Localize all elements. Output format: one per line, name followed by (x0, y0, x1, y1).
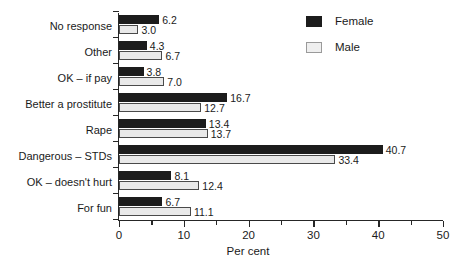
bar-value-label: 33.4 (335, 154, 358, 165)
x-axis-tick-major (249, 221, 250, 227)
category-label: OK – doesn't hurt (0, 177, 112, 188)
bar-female[interactable] (119, 197, 162, 206)
bar-male[interactable] (119, 77, 164, 86)
x-axis-tick-label: 20 (242, 230, 255, 242)
bar-group: 16.712.7 (119, 91, 443, 117)
y-axis-tick (113, 37, 119, 38)
plot-area: 6.23.04.36.73.87.016.712.713.413.740.733… (119, 13, 443, 221)
bar-group: 40.733.4 (119, 143, 443, 169)
category-label: Other (0, 47, 112, 58)
bar-value-label: 13.7 (208, 128, 231, 139)
bar-male[interactable] (119, 207, 191, 216)
bar-value-label: 6.7 (162, 196, 180, 207)
bar-chart: No responseOtherOK – if payBetter a pros… (0, 0, 459, 269)
bar-group: 3.87.0 (119, 65, 443, 91)
legend-swatch-female-icon (306, 16, 322, 27)
bar-male[interactable] (119, 181, 199, 190)
bar-group: 6.23.0 (119, 13, 443, 39)
x-axis-tick-major (378, 221, 379, 227)
x-axis-tick-minor (281, 221, 282, 225)
bar-value-label: 7.0 (164, 76, 182, 87)
bar-male[interactable] (119, 25, 138, 34)
legend-item-female: Female (306, 16, 373, 28)
x-axis-tick-minor (411, 221, 412, 225)
x-axis-tick-major (184, 221, 185, 227)
bar-value-label: 6.2 (159, 14, 177, 25)
bar-value-label: 3.8 (144, 66, 162, 77)
bar-value-label: 12.4 (199, 180, 222, 191)
x-axis-title: Per cent (227, 246, 270, 258)
y-axis-tick (113, 115, 119, 116)
bar-value-label: 12.7 (201, 102, 224, 113)
y-axis-tick (113, 11, 119, 12)
x-axis-tick-label: 10 (177, 230, 190, 242)
bar-male[interactable] (119, 155, 335, 164)
bar-female[interactable] (119, 67, 144, 76)
bar-male[interactable] (119, 103, 201, 112)
bar-value-label: 11.1 (191, 206, 214, 217)
bar-value-label: 6.7 (162, 50, 180, 61)
legend-label-female: Female (335, 16, 373, 28)
category-label: No response (0, 21, 112, 32)
bar-value-label: 40.7 (383, 144, 406, 155)
bar-group: 6.711.1 (119, 195, 443, 221)
legend-swatch-male-icon (306, 42, 322, 53)
x-axis-tick-minor (346, 221, 347, 225)
category-label: For fun (0, 203, 112, 214)
y-axis-tick (113, 141, 119, 142)
x-axis-tick-major (313, 221, 314, 227)
bar-group: 13.413.7 (119, 117, 443, 143)
bar-group: 4.36.7 (119, 39, 443, 65)
x-axis-tick-label: 0 (116, 230, 122, 242)
y-axis-tick (113, 89, 119, 90)
bar-male[interactable] (119, 129, 208, 138)
x-axis-tick-label: 50 (437, 230, 450, 242)
bar-value-label: 4.3 (147, 40, 165, 51)
legend-label-male: Male (335, 42, 360, 54)
category-label: Rape (0, 125, 112, 136)
x-axis-tick-minor (151, 221, 152, 225)
x-axis-tick-major (443, 221, 444, 227)
bar-male[interactable] (119, 51, 162, 60)
bar-group: 8.112.4 (119, 169, 443, 195)
bar-value-label: 16.7 (227, 92, 250, 103)
bar-female[interactable] (119, 171, 171, 180)
category-label: Dangerous – STDs (0, 151, 112, 162)
y-axis-tick (113, 63, 119, 64)
category-label: Better a prostitute (0, 99, 112, 110)
x-axis-tick-label: 30 (307, 230, 320, 242)
y-axis-tick (113, 167, 119, 168)
bar-female[interactable] (119, 41, 147, 50)
x-axis-tick-major (119, 221, 120, 227)
bar-value-label: 8.1 (171, 170, 189, 181)
y-axis-tick (113, 193, 119, 194)
x-axis-tick-label: 40 (372, 230, 385, 242)
category-label: OK – if pay (0, 73, 112, 84)
legend-item-male: Male (306, 42, 360, 54)
x-axis-tick-minor (216, 221, 217, 225)
bar-value-label: 3.0 (138, 24, 156, 35)
bar-female[interactable] (119, 119, 206, 128)
